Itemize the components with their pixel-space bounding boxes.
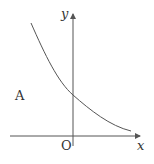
- graph-svg: y x O A: [0, 0, 154, 164]
- graph-label-a: A: [14, 88, 25, 103]
- graph-diagram: y x O A: [0, 0, 154, 164]
- origin-label: O: [61, 138, 72, 153]
- function-curve: [31, 23, 131, 131]
- y-axis-label: y: [60, 6, 69, 21]
- x-axis-label: x: [137, 138, 145, 153]
